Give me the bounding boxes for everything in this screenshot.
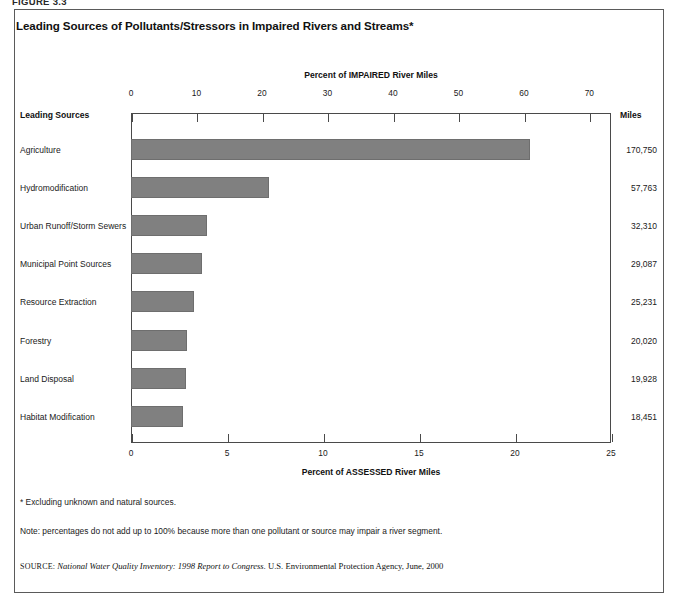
bottom-axis-tick — [612, 434, 613, 442]
chart-title: Leading Sources of Pollutants/Stressors … — [16, 19, 414, 32]
figure-caption: FIGURE 3.3 — [12, 0, 67, 7]
category-label: Urban Runoff/Storm Sewers — [20, 221, 126, 231]
top-axis-tick-label: 10 — [192, 88, 201, 98]
top-axis-tick — [132, 114, 133, 122]
bottom-axis-tick — [324, 434, 325, 442]
bottom-axis-tick-label: 25 — [606, 448, 615, 458]
plot-area — [131, 113, 611, 443]
category-label: Habitat Modification — [20, 412, 95, 422]
miles-value: 57,763 — [631, 183, 657, 193]
bottom-axis-tick — [420, 434, 421, 442]
miles-value: 25,231 — [631, 297, 657, 307]
bar — [131, 291, 194, 312]
top-axis-tick — [525, 114, 526, 122]
top-axis-tick-label: 0 — [129, 88, 134, 98]
source-publication: National Water Quality Inventory: 1998 R… — [57, 561, 265, 571]
footnote-asterisk: * Excluding unknown and natural sources. — [20, 497, 176, 507]
miles-value: 20,020 — [631, 336, 657, 346]
source-label: SOURCE: — [20, 562, 55, 571]
top-axis-tick — [328, 114, 329, 122]
bar — [131, 139, 530, 160]
bar — [131, 406, 183, 427]
category-label: Hydromodification — [20, 183, 88, 193]
footnote-note: Note: percentages do not add up to 100% … — [20, 526, 442, 536]
category-label: Land Disposal — [20, 374, 74, 384]
bar — [131, 368, 186, 389]
top-axis-tick-label: 70 — [585, 88, 594, 98]
top-axis-tick — [459, 114, 460, 122]
top-axis-tick — [394, 114, 395, 122]
top-axis-tick — [197, 114, 198, 122]
top-axis-tick-label: 40 — [388, 88, 397, 98]
top-axis-tick-label: 20 — [257, 88, 266, 98]
bar — [131, 330, 187, 351]
bottom-axis-tick-label: 15 — [414, 448, 423, 458]
bottom-axis-title: Percent of ASSESSED River Miles — [131, 467, 611, 477]
miles-value: 18,451 — [631, 412, 657, 422]
top-axis-tick-label: 30 — [323, 88, 332, 98]
source-attribution: U.S. Environmental Protection Agency, Ju… — [268, 561, 443, 571]
source-line: SOURCE: National Water Quality Inventory… — [20, 561, 443, 571]
bottom-axis-tick-label: 20 — [510, 448, 519, 458]
miles-value: 29,087 — [631, 259, 657, 269]
column-header-leading-sources: Leading Sources — [20, 110, 89, 120]
column-header-miles: Miles — [620, 110, 642, 120]
top-axis-tick-label: 60 — [519, 88, 528, 98]
bar — [131, 253, 202, 274]
bottom-axis-tick — [516, 434, 517, 442]
category-label: Municipal Point Sources — [20, 259, 111, 269]
category-label: Agriculture — [20, 145, 61, 155]
top-axis-title: Percent of IMPAIRED River Miles — [131, 70, 611, 80]
top-axis-tick — [590, 114, 591, 122]
miles-value: 19,928 — [631, 374, 657, 384]
bottom-axis-tick — [228, 434, 229, 442]
category-label: Resource Extraction — [20, 297, 97, 307]
bottom-axis-tick-label: 0 — [129, 448, 134, 458]
top-axis-tick-label: 50 — [454, 88, 463, 98]
bar — [131, 177, 269, 198]
bottom-axis-tick-label: 5 — [225, 448, 230, 458]
miles-value: 32,310 — [631, 221, 657, 231]
top-axis-tick — [263, 114, 264, 122]
miles-value: 170,750 — [626, 145, 657, 155]
bottom-axis-tick — [132, 434, 133, 442]
bar — [131, 215, 207, 236]
category-label: Forestry — [20, 336, 51, 346]
bottom-axis-tick-label: 10 — [318, 448, 327, 458]
